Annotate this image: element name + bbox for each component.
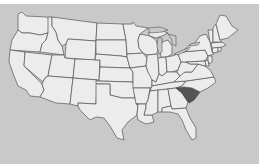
state-new-mexico[interactable]: [70, 78, 97, 106]
us-map: [0, 0, 259, 164]
lake-michigan: [157, 38, 162, 54]
state-maine[interactable]: [216, 15, 238, 40]
state-rhode-island[interactable]: [218, 47, 221, 52]
state-wyoming[interactable]: [65, 39, 96, 60]
state-kansas[interactable]: [99, 67, 133, 82]
state-washington[interactable]: [18, 12, 50, 35]
state-arizona[interactable]: [40, 76, 73, 104]
state-colorado[interactable]: [73, 59, 100, 80]
state-north-dakota[interactable]: [96, 23, 126, 40]
state-massachusetts[interactable]: [211, 42, 226, 48]
state-iowa[interactable]: [127, 53, 147, 68]
state-florida[interactable]: [162, 106, 196, 140]
state-new-jersey[interactable]: [208, 56, 212, 64]
state-utah[interactable]: [48, 55, 75, 78]
